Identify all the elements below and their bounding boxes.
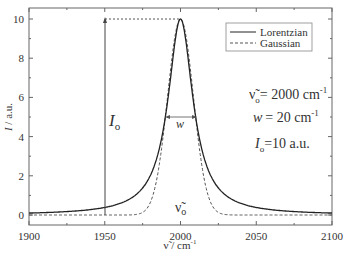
legend-gaussian-label: Gaussian xyxy=(260,37,301,49)
x-tick-label: 1950 xyxy=(94,230,117,242)
x-tick-label: 2050 xyxy=(245,230,268,242)
legend: Lorentzian Gaussian xyxy=(226,23,312,51)
width-label: w xyxy=(176,117,184,131)
y-tick-label: 8 xyxy=(19,52,25,64)
y-tick-label: 10 xyxy=(13,13,25,25)
center-nu-label: ν̃o xyxy=(175,200,186,217)
x-tick-label: 2100 xyxy=(321,230,344,242)
param-nu: ν̃o= 2000 cm-1 xyxy=(249,85,327,105)
y-tick-label: 2 xyxy=(19,170,25,182)
line-chart: 190019502000205021000246810 Io w ν̃o Lor… xyxy=(0,0,352,258)
y-tick-label: 4 xyxy=(19,131,25,143)
x-axis-title: ν̃ / cm-1 xyxy=(164,238,197,251)
param-io: Io=10 a.u. xyxy=(254,136,310,154)
y-tick-label: 0 xyxy=(19,209,25,221)
y-axis-title: I / a.u. xyxy=(2,103,14,132)
arrow-head-icon xyxy=(103,17,107,23)
y-tick-label: 6 xyxy=(19,91,25,103)
x-tick-label: 1900 xyxy=(18,230,41,242)
io-arrow-label: Io xyxy=(108,111,121,132)
param-w: w= 20 cm-1 xyxy=(253,108,319,125)
